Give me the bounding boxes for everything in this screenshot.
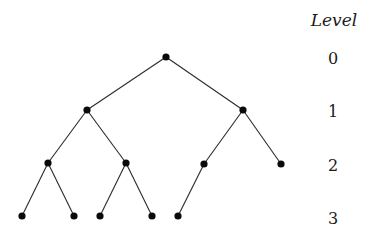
tree-edge: [243, 110, 281, 164]
tree-edge: [48, 163, 74, 216]
level-label-0: 0: [328, 49, 338, 68]
tree-diagram: Level 0 1 2 3: [0, 0, 370, 236]
tree-node-level-2: [122, 159, 129, 166]
tree-node-level-2: [200, 160, 207, 167]
tree-node-level-3: [70, 212, 77, 219]
tree-edge: [178, 164, 204, 216]
tree-edge: [22, 163, 48, 216]
tree-node-level-3: [174, 212, 181, 219]
tree-node-level-1: [239, 106, 246, 113]
tree-edge: [204, 110, 243, 164]
level-heading: Level: [310, 10, 357, 30]
tree-node-level-3: [96, 212, 103, 219]
tree-node-level-3: [148, 212, 155, 219]
tree-nodes: [18, 53, 284, 219]
tree-node-level-0: [162, 53, 169, 60]
tree-node-level-2: [44, 159, 51, 166]
tree-edge: [100, 163, 126, 216]
tree-edge: [48, 110, 87, 163]
tree-edge: [87, 57, 166, 110]
tree-node-level-1: [83, 106, 90, 113]
level-label-3: 3: [328, 209, 338, 228]
tree-edge: [87, 110, 126, 163]
level-label-1: 1: [328, 102, 338, 121]
tree-edge: [126, 163, 152, 216]
tree-node-level-2: [277, 160, 284, 167]
tree-edge: [166, 57, 243, 110]
tree-edges: [22, 57, 281, 216]
level-labels: Level 0 1 2 3: [310, 10, 357, 228]
level-label-2: 2: [328, 156, 338, 175]
tree-node-level-3: [18, 212, 25, 219]
